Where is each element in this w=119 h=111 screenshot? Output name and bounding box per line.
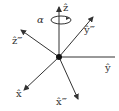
z-triple-prime-axis: [21, 30, 59, 57]
y-triple-prime-axis: [59, 17, 93, 57]
origin-point: [56, 54, 62, 60]
alpha-label: α: [37, 15, 44, 25]
rotation-arrow-icon: [51, 16, 71, 24]
coordinate-diagram: ẑ α ŷ‴ ẑ‴ ŷ x̂ x̂‴: [0, 0, 119, 111]
x-triple-prime-label: x̂‴: [56, 97, 67, 107]
x-triple-prime-axis: [59, 57, 78, 99]
x-axis-label: x̂: [16, 89, 22, 99]
x-axis: [24, 57, 59, 90]
z-axis-label: ẑ: [63, 3, 68, 13]
y-triple-prime-label: ŷ‴: [84, 25, 95, 35]
y-axis-label: ŷ: [105, 63, 111, 73]
z-triple-prime-label: ẑ‴: [12, 36, 22, 46]
